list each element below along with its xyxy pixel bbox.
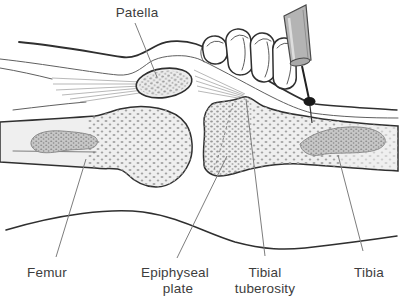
tibial-tuberosity-label-line1: Tibial xyxy=(249,265,282,280)
epiphyseal-plate-label-line2: plate xyxy=(163,281,193,296)
femur-label: Femur xyxy=(27,265,67,280)
epiphyseal-plate-label-line1: Epiphyseal xyxy=(141,265,209,280)
tibia-leader-line xyxy=(338,155,363,251)
quadriceps-tendon xyxy=(52,78,146,102)
insertion-site-dot xyxy=(304,97,316,106)
skin-outline xyxy=(0,41,398,118)
patella-label: Patella xyxy=(116,5,159,20)
tibial-tuberosity-label-line2: tuberosity xyxy=(235,281,296,296)
patella-shape xyxy=(134,65,193,102)
knee-diagram-figure: Patella Femur Epiphyseal plate Tibial tu… xyxy=(0,0,399,301)
femur-shape xyxy=(0,107,198,192)
tibia-label: Tibia xyxy=(354,265,384,280)
patella-leader-line xyxy=(135,23,157,77)
knee-diagram-illustration: Patella Femur Epiphyseal plate Tibial tu… xyxy=(0,0,399,301)
femur-leader-line xyxy=(56,159,86,257)
needle-icon xyxy=(302,66,309,99)
